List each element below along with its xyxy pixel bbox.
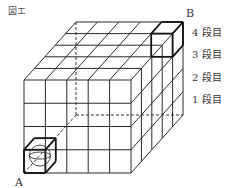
top-depth-line (45, 22, 97, 80)
end-cube-depth-edge (173, 45, 183, 57)
right-depth-line (131, 92, 183, 150)
end-cube-depth-edge (151, 22, 161, 34)
grid-lines (24, 22, 183, 173)
end-cube-depth-edge (173, 22, 183, 34)
tier-label-4: 4 段目 (192, 26, 222, 38)
cube-diagram: 図エ A B 4 段目 3 段目 2 段目 1 段目 (0, 0, 227, 188)
right-depth-line (131, 115, 183, 173)
top-depth-line (88, 22, 140, 80)
tier-label-1: 1 段目 (192, 93, 222, 105)
top-depth-line (67, 22, 119, 80)
hidden-edges (24, 22, 183, 173)
sphere-icon (29, 145, 50, 166)
corner-label-a: A (14, 176, 24, 188)
tier-label-3: 3 段目 (192, 48, 222, 60)
figure-title: 図エ (8, 6, 26, 16)
sphere-equator (29, 152, 50, 159)
right-depth-line (131, 69, 183, 127)
corner-label-b: B (186, 7, 194, 20)
tier-label-2: 2 段目 (192, 71, 222, 83)
top-depth-line (24, 22, 76, 80)
